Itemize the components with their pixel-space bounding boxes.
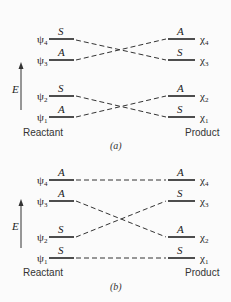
reactant-label: Reactant [23, 127, 63, 138]
energy-arrow: E [11, 62, 24, 110]
chi3-label: χ3 [199, 54, 209, 68]
energy-label: E [11, 83, 19, 95]
product-label: Product [185, 127, 220, 138]
chi1-label: χ1 [199, 111, 209, 125]
correlation-psi2-chi1 [76, 96, 166, 117]
psi4-symmetry: S [58, 25, 64, 37]
panel-a: E ψ4 ψ3 ψ2 ψ1 S A S A χ4 χ3 χ2 χ1 A S A … [11, 25, 220, 152]
chi2-symmetry: A [176, 223, 184, 235]
product-label: Product [185, 267, 220, 278]
chi1-symmetry: S [177, 103, 183, 115]
psi3-label: ψ3 [37, 54, 48, 68]
chi3-symmetry: S [177, 46, 183, 58]
psi1-symmetry: A [57, 103, 65, 115]
arrow-head-icon [19, 62, 24, 69]
correlation-psi3-chi4 [76, 39, 166, 60]
caption-b: (b) [110, 281, 122, 293]
chi2-label: χ2 [199, 90, 209, 104]
caption-a: (a) [110, 140, 122, 152]
arrow-head-icon [19, 199, 24, 206]
psi2-label: ψ2 [37, 231, 48, 245]
energy-label: E [11, 220, 19, 232]
reactant-label: Reactant [23, 267, 63, 278]
chi3-symmetry: S [177, 187, 183, 199]
psi1-label: ψ1 [37, 252, 48, 266]
chi4-label: χ4 [199, 33, 209, 47]
correlation-psi1-chi2 [76, 96, 166, 117]
correlation-diagram: E ψ4 ψ3 ψ2 ψ1 S A S A χ4 χ3 χ2 χ1 A S A … [0, 0, 231, 302]
panel-b: E ψ4 ψ3 ψ2 ψ1 A A S S χ4 χ3 χ2 χ1 A S A … [11, 166, 220, 293]
psi3-label: ψ3 [37, 195, 48, 209]
psi1-symmetry: S [58, 244, 64, 256]
chi4-label: χ4 [199, 174, 209, 188]
chi1-label: χ1 [199, 252, 209, 266]
psi3-symmetry: A [57, 187, 65, 199]
psi3-symmetry: A [57, 46, 65, 58]
psi1-label: ψ1 [37, 111, 48, 125]
chi4-symmetry: A [176, 25, 184, 37]
psi4-label: ψ4 [37, 174, 48, 188]
chi2-label: χ2 [199, 231, 209, 245]
psi4-symmetry: A [57, 166, 65, 178]
chi4-symmetry: A [176, 166, 184, 178]
chi3-label: χ3 [199, 195, 209, 209]
correlation-psi4-chi3 [76, 40, 166, 60]
psi2-label: ψ2 [37, 90, 48, 104]
chi1-symmetry: S [177, 244, 183, 256]
chi2-symmetry: A [176, 82, 184, 94]
psi2-symmetry: S [58, 223, 64, 235]
psi2-symmetry: S [58, 82, 64, 94]
psi4-label: ψ4 [37, 33, 48, 47]
energy-arrow: E [11, 199, 24, 248]
